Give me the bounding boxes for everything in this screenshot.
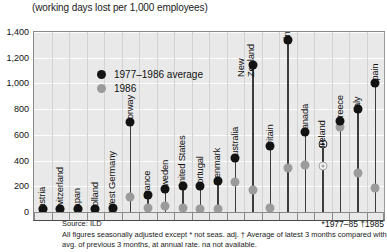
data-point-1986-finland[interactable] — [283, 164, 292, 173]
y-tick-label-400: 400 — [14, 156, 29, 166]
x-tick — [139, 213, 140, 220]
category-label-finland: Finland — [281, 31, 292, 44]
year-note: *1977–85 †1985 — [322, 219, 384, 229]
category-label-australia: Australia — [229, 127, 240, 162]
footnote-line-2: of previous 3 months, at annual rate. na… — [78, 240, 256, 249]
vertical-gridline — [332, 32, 333, 212]
category-label-united-states: United States — [176, 135, 187, 189]
x-tick — [209, 213, 210, 220]
x-tick — [104, 213, 105, 220]
stem-italy — [357, 109, 359, 212]
vertical-gridline — [157, 32, 158, 212]
x-tick — [244, 213, 245, 220]
y-tick-label-600: 600 — [14, 130, 29, 140]
data-point-1986-australia[interactable] — [231, 177, 240, 186]
vertical-gridline — [314, 32, 315, 212]
stem-greece — [340, 121, 342, 212]
vertical-gridline — [104, 32, 105, 212]
vertical-gridline — [139, 32, 140, 212]
vertical-gridline — [52, 32, 53, 212]
category-label-greece: Greece — [334, 95, 345, 125]
category-label-sweden: Sweden — [159, 160, 170, 193]
vertical-gridline — [209, 32, 210, 212]
x-tick — [314, 213, 315, 220]
vertical-gridline — [367, 32, 368, 212]
x-tick — [297, 213, 298, 220]
category-label-new-zealand: NewZealand — [236, 44, 255, 77]
category-label-norway: Norway — [124, 95, 135, 126]
legend-black-dot-icon — [97, 70, 106, 79]
category-label-portugal: Portugal — [194, 156, 205, 190]
category-label-spain: Spain — [369, 64, 380, 87]
data-point-1986-united-states[interactable] — [178, 203, 187, 212]
category-label-switzerland: Switzerland — [54, 167, 65, 213]
source-label: Source: ILD — [62, 219, 102, 228]
data-point-1986-canada[interactable] — [301, 161, 310, 170]
legend-gray-dot-icon — [97, 84, 106, 93]
data-point-1986-norway[interactable] — [126, 192, 135, 201]
x-tick — [279, 213, 280, 220]
plot-area: AustriaSwitzerlandJapanHollandWest Germa… — [33, 31, 385, 213]
stem-canada — [305, 132, 307, 212]
data-point-1986-britain[interactable] — [266, 203, 275, 212]
vertical-gridline — [87, 32, 88, 212]
y-tick-label-1200: 1,200 — [6, 53, 29, 63]
stem-finland — [287, 40, 289, 212]
footnote: All figures seasonally adjusted except *… — [62, 230, 387, 249]
category-label-canada: Canada — [299, 104, 310, 136]
category-label-japan: Japan — [71, 189, 82, 213]
category-label-denmark: Denmark — [211, 147, 222, 184]
x-tick — [157, 213, 158, 220]
data-point-1986-italy[interactable] — [353, 169, 362, 178]
x-tick — [174, 213, 175, 220]
x-tick — [52, 213, 53, 220]
vertical-gridline — [297, 32, 298, 212]
x-tick — [34, 213, 35, 220]
y-tick-label-0: 0 — [24, 207, 29, 217]
legend-label-average: 1977–1986 average — [114, 69, 203, 80]
legend-item-1986: 1986 — [97, 82, 203, 94]
legend-label-1986: 1986 — [114, 83, 136, 94]
data-point-1986-france[interactable] — [143, 204, 152, 213]
x-tick — [262, 213, 263, 220]
data-point-1986-portugal[interactable] — [196, 204, 205, 213]
category-label-britain: Britain — [264, 125, 275, 151]
x-tick — [122, 213, 123, 220]
x-tick — [192, 213, 193, 220]
category-label-italy: Italy — [351, 97, 362, 113]
vertical-gridline — [192, 32, 193, 212]
vertical-gridline — [349, 32, 350, 212]
vertical-gridline — [69, 32, 70, 212]
category-label-austria: Austria — [36, 187, 47, 213]
data-point-1986-ireland[interactable] — [318, 161, 327, 170]
vertical-gridline — [279, 32, 280, 212]
chart-root: (working days lost per 1,000 employees) … — [0, 0, 387, 252]
data-point-1986-new-zealand[interactable] — [248, 185, 257, 194]
data-point-1986-sweden[interactable] — [161, 201, 170, 210]
stem-ireland — [322, 144, 324, 212]
x-tick — [227, 213, 228, 220]
data-point-1986-spain[interactable] — [371, 183, 380, 192]
y-axis-labels: 02004006008001,0001,2001,400 — [0, 0, 31, 252]
chart-legend: 1977–1986 average 1986 — [97, 68, 203, 96]
category-label-france: France — [141, 170, 152, 198]
y-tick-label-1000: 1,000 — [6, 78, 29, 88]
vertical-gridline — [122, 32, 123, 212]
y-tick-label-200: 200 — [14, 181, 29, 191]
stem-spain — [375, 83, 377, 212]
y-tick-label-1400: 1,400 — [6, 27, 29, 37]
category-label-west-germany: West Germany — [106, 151, 117, 212]
vertical-gridline — [174, 32, 175, 212]
legend-item-average: 1977–1986 average — [97, 68, 203, 80]
category-label-ireland: Ireland — [316, 120, 327, 148]
category-label-holland: Holland — [89, 182, 100, 213]
vertical-gridline — [262, 32, 263, 212]
data-point-1986-denmark[interactable] — [213, 205, 222, 214]
chart-subtitle: (working days lost per 1,000 employees) — [32, 2, 208, 13]
vertical-gridline — [227, 32, 228, 212]
y-tick-label-800: 800 — [14, 104, 29, 114]
